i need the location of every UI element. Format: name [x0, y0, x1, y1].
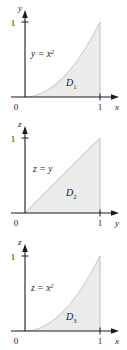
equation-var-d3: z — [30, 283, 35, 293]
x-tick-label-d3: 1 — [98, 336, 103, 346]
shaded-region-d1 — [25, 22, 100, 97]
equation-eq-d3: = — [37, 283, 43, 293]
equation-label-d3: z=x2 — [30, 282, 54, 294]
horizontal-axis-label-d2: y — [114, 218, 119, 228]
vertical-axis-arrow-d2 — [22, 126, 28, 134]
region-sub-d1: 1 — [73, 83, 76, 90]
y-tick-label-d2: 1 — [11, 134, 16, 144]
x-tick-label-d1: 1 — [98, 102, 103, 112]
equation-eq-d1: = — [38, 49, 44, 59]
vertical-axis-label-d3: z — [17, 237, 22, 247]
panel-d3: 1 1 0 z x z=x2 D3 — [0, 234, 127, 350]
x-tick-label-d2: 1 — [98, 218, 103, 228]
equation-label-d2: z=y — [32, 164, 53, 174]
horizontal-axis-arrow-d2 — [111, 210, 119, 216]
y-tick-label-d3: 1 — [11, 252, 16, 262]
y-tick-label-d1: 1 — [11, 18, 16, 28]
horizontal-axis-arrow-d1 — [111, 94, 119, 100]
panel-d2: 1 1 0 z y z=y D2 — [0, 116, 127, 232]
region-sub-d2: 2 — [73, 193, 76, 200]
region-sub-d3: 3 — [73, 317, 76, 324]
vertical-axis-label-d1: y — [17, 3, 22, 13]
horizontal-axis-label-d3: x — [114, 336, 119, 346]
panel-d1: 1 1 0 y x y=x2 D1 — [0, 0, 127, 116]
vertical-axis-arrow-d1 — [22, 10, 28, 18]
equation-label-d1: y=x2 — [30, 48, 55, 60]
equation-eq-d2: = — [39, 164, 45, 174]
horizontal-axis-label-d1: x — [114, 102, 119, 112]
projection-regions-figure: 1 1 0 y x y=x2 D1 — [0, 0, 127, 350]
vertical-axis-arrow-d3 — [22, 244, 28, 252]
shaded-region-d3 — [25, 256, 100, 331]
equation-exp-d3: 2 — [50, 282, 54, 289]
equation-var-d2: z — [32, 164, 37, 174]
equation-exp-d1: 2 — [51, 48, 55, 55]
horizontal-axis-arrow-d3 — [111, 328, 119, 334]
origin-label-d2: 0 — [14, 218, 19, 228]
vertical-axis-label-d2: z — [17, 119, 22, 129]
origin-label-d3: 0 — [14, 336, 19, 346]
equation-var-d1: y — [30, 49, 36, 59]
equation-base-d2: y — [47, 164, 53, 174]
origin-label-d1: 0 — [14, 102, 19, 112]
